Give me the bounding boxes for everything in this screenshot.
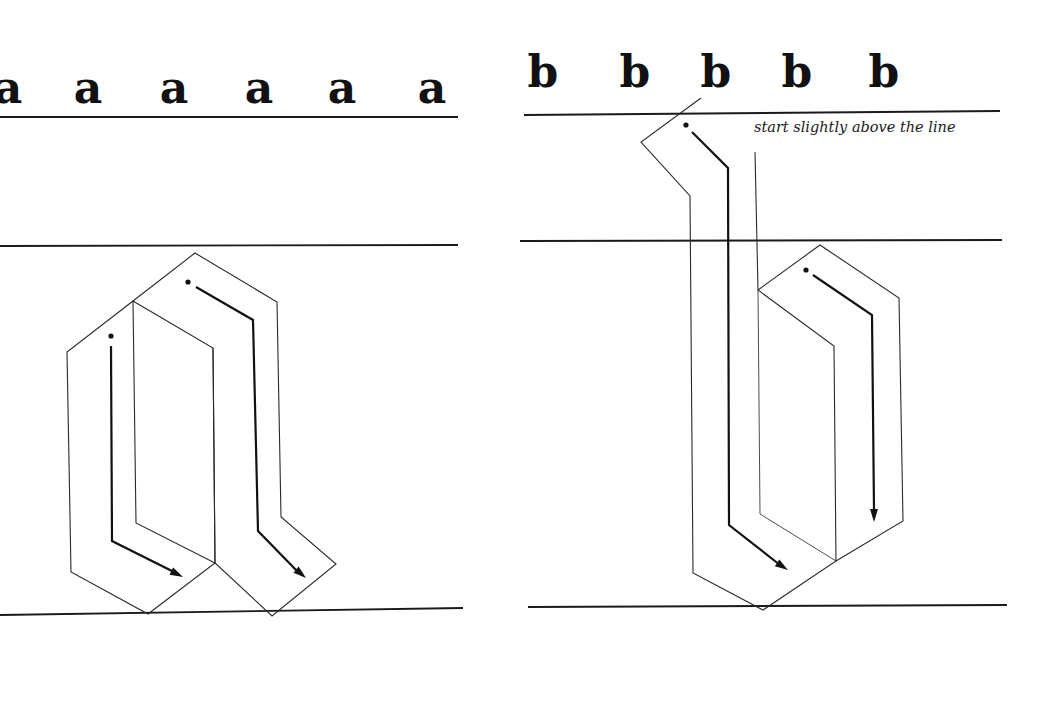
waist-line bbox=[0, 245, 458, 246]
page-background bbox=[0, 0, 1043, 727]
model-glyph-b: b bbox=[620, 46, 651, 97]
waist-line bbox=[520, 240, 1002, 241]
model-glyph-b: b bbox=[869, 46, 900, 97]
start-above-line-annotation: start slightly above the line bbox=[754, 119, 955, 135]
start-dot-icon bbox=[683, 122, 688, 127]
start-dot-icon bbox=[185, 279, 190, 284]
model-glyph-b: b bbox=[701, 46, 732, 97]
start-dot-icon bbox=[803, 267, 808, 272]
model-glyph-a: a bbox=[418, 62, 447, 113]
model-glyph-b: b bbox=[528, 46, 559, 97]
calligraphy-practice-sheet: aaaaaa bbbbb start slightly above the li… bbox=[0, 0, 1043, 727]
start-dot-icon bbox=[108, 333, 113, 338]
model-glyph-a: a bbox=[328, 62, 357, 113]
model-glyph-a: a bbox=[74, 62, 103, 113]
model-glyph-b: b bbox=[782, 46, 813, 97]
model-glyph-a: a bbox=[160, 62, 189, 113]
model-glyph-a: a bbox=[0, 62, 22, 113]
model-glyph-a: a bbox=[245, 62, 274, 113]
